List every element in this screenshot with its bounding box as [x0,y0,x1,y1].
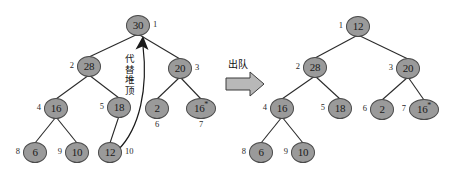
dequeue-block-arrow [226,72,264,96]
tree-edge [358,35,408,59]
node-index-label: 3 [195,63,199,72]
tree-edge [89,75,119,98]
tree-edge [282,76,315,99]
tree-edge [157,77,180,99]
node-index-label: 2 [70,61,74,70]
node-index-label: 1 [153,20,157,29]
node-index-label: 4 [37,103,41,112]
tree-node: 18 [328,98,352,119]
node-index-label: 5 [100,102,104,111]
tree-node: 10 [291,142,315,163]
tree-edge [382,77,408,100]
node-index-label: 7 [199,120,203,129]
tree-node: 20 [396,58,420,79]
tree-node: 6 [23,142,47,163]
replace-heap-top-label: 代替堆顶 [124,54,134,96]
replace-heap-top-arrowhead [136,36,149,50]
tree-node: 16 [270,98,294,119]
node-index-label: 7 [402,104,406,113]
tree-node: 20 [168,58,192,79]
node-index-label: 9 [58,147,62,156]
node-index-label: 6 [155,120,159,129]
node-index-label: 2 [296,62,300,71]
node-index-label: 10 [125,147,134,156]
tree-node: 2 [145,98,169,119]
node-index-label: 1 [339,21,343,30]
tree-edge [282,117,303,143]
tree-node: 6 [249,142,273,163]
node-index-label: 8 [242,147,246,156]
heap-dequeue-diagram: 3012822031641852616*76810912101212822031… [0,0,452,174]
node-index-label: 3 [389,63,393,72]
tree-node: 16* [409,99,439,120]
dequeue-label: 出队 [228,60,248,70]
tree-node: 28 [77,56,101,77]
tree-edge [56,117,77,143]
tree-edge [408,77,424,100]
tree-node: 10 [65,142,89,163]
tree-edge [315,35,358,58]
tree-edge [35,117,56,143]
tree-node: 12 [98,142,122,163]
node-index-label: 5 [321,103,325,112]
node-index-label: 4 [263,103,267,112]
tree-node: 16 [44,98,68,119]
tree-node: 30 [126,15,150,36]
tree-edge [56,75,89,99]
tree-edge [315,76,340,99]
node-index-label: 8 [16,147,20,156]
tree-edge [261,117,282,143]
tree-node: 2 [370,99,394,120]
tree-node: 18 [107,97,131,118]
tree-node: 12 [346,16,370,37]
tree-node: 28 [303,57,327,78]
tree-edge [180,77,201,99]
node-index-label: 9 [284,147,288,156]
tree-edge [110,116,119,143]
tree-node: 16* [186,98,216,119]
node-index-label: 6 [363,104,367,113]
